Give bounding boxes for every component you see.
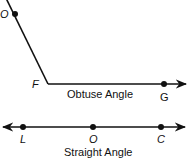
point-o2-dot [90, 124, 96, 130]
angles-diagram: O F G Obtuse Angle L O C Straight Angle [0, 0, 194, 158]
point-c-label: C [157, 133, 165, 145]
point-g-label: G [160, 91, 169, 103]
point-o2-label: O [89, 133, 98, 145]
point-o-dot [12, 11, 18, 17]
point-g-dot [161, 81, 167, 87]
point-c-dot [158, 124, 164, 130]
straight-angle-figure: L O C Straight Angle [3, 124, 185, 158]
ray-fo [4, 0, 48, 84]
obtuse-angle-caption: Obtuse Angle [67, 88, 133, 100]
straight-angle-caption: Straight Angle [64, 146, 133, 158]
point-o-label: O [0, 8, 9, 20]
obtuse-angle-figure: O F G Obtuse Angle [0, 0, 186, 103]
point-l-label: L [20, 133, 26, 145]
vertex-f-label: F [32, 78, 40, 90]
point-l-dot [20, 124, 26, 130]
